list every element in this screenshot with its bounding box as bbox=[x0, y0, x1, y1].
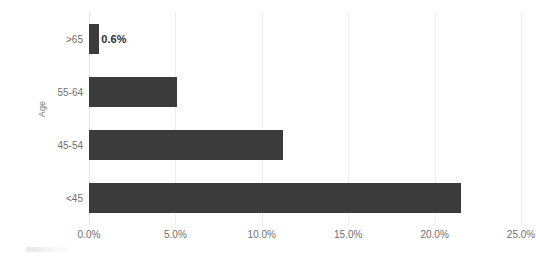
bar-row: 0.6% bbox=[89, 24, 521, 54]
x-axis-tick-labels: 0.0%5.0%10.0%15.0%20.0%25.0% bbox=[89, 229, 521, 245]
x-axis-tick-label: 0.0% bbox=[78, 229, 101, 240]
bar-value-label: 0.6% bbox=[101, 33, 126, 45]
bar bbox=[89, 77, 177, 107]
x-axis-tick-label: 15.0% bbox=[334, 229, 362, 240]
plot-area: 0.6% bbox=[89, 12, 521, 225]
bar-row bbox=[89, 183, 521, 213]
scan-artifact bbox=[26, 247, 78, 252]
bar-row bbox=[89, 130, 521, 160]
y-axis-tick-labels: >6555-6445-54<45 bbox=[19, 12, 83, 225]
bar bbox=[89, 130, 283, 160]
x-axis-tick-label: 25.0% bbox=[507, 229, 535, 240]
bar bbox=[89, 183, 461, 213]
bar-row bbox=[89, 77, 521, 107]
y-axis-tick-label: 55-64 bbox=[23, 86, 83, 97]
x-axis-tick-label: 20.0% bbox=[420, 229, 448, 240]
x-axis-tick-label: 5.0% bbox=[164, 229, 187, 240]
bar-chart: Age >6555-6445-54<45 0.6% 0.0%5.0%10.0%1… bbox=[0, 0, 536, 257]
y-axis-tick-label: >65 bbox=[23, 33, 83, 44]
gridline bbox=[521, 12, 522, 225]
bar: 0.6% bbox=[89, 24, 99, 54]
x-axis-tick-label: 10.0% bbox=[248, 229, 276, 240]
y-axis-tick-label: <45 bbox=[23, 193, 83, 204]
y-axis-tick-label: 45-54 bbox=[23, 140, 83, 151]
